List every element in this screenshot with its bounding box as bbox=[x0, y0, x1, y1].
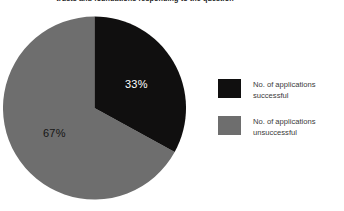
legend-label-unsuccessful-line2: unsuccessful bbox=[253, 128, 315, 139]
pie-chart: 33% 67% bbox=[3, 14, 186, 202]
legend-label-successful: No. of applications successful bbox=[253, 79, 315, 101]
chart-title: trusts and foundations responding to the… bbox=[0, 0, 290, 3]
pie-chart-figure: trusts and foundations responding to the… bbox=[0, 0, 344, 211]
pie-label-unsuccessful: 67% bbox=[43, 127, 66, 139]
chart-legend: No. of applications successful No. of ap… bbox=[218, 79, 344, 153]
legend-label-unsuccessful: No. of applications unsuccessful bbox=[253, 116, 315, 138]
legend-label-unsuccessful-line1: No. of applications bbox=[253, 117, 315, 126]
legend-label-successful-line2: successful bbox=[253, 91, 315, 102]
legend-item-unsuccessful[interactable]: No. of applications unsuccessful bbox=[218, 116, 344, 138]
legend-item-successful[interactable]: No. of applications successful bbox=[218, 79, 344, 101]
legend-swatch-successful bbox=[218, 79, 241, 98]
legend-label-successful-line1: No. of applications bbox=[253, 80, 315, 89]
legend-swatch-unsuccessful bbox=[218, 116, 241, 135]
pie-chart-svg bbox=[3, 14, 186, 202]
pie-label-successful: 33% bbox=[125, 78, 148, 90]
